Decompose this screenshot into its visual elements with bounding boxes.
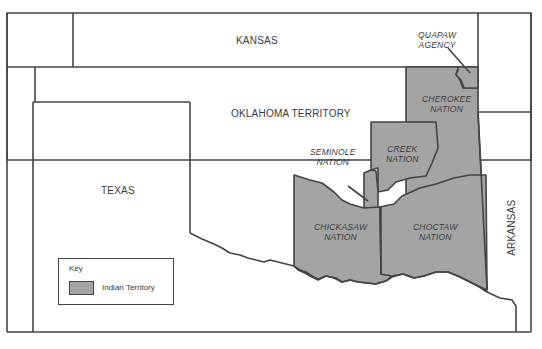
label-chickasaw-line2: NATION — [314, 233, 367, 243]
label-kansas: KANSAS — [236, 35, 278, 47]
legend-label-indian-territory: Indian Territory — [102, 283, 155, 292]
label-cherokee-nation: CHEROKEE NATION — [422, 95, 471, 115]
label-texas: TEXAS — [101, 185, 135, 197]
label-creek-line2: NATION — [386, 155, 419, 165]
label-seminole-line2: NATION — [310, 158, 356, 168]
seminole-nation-area — [364, 170, 378, 208]
label-oklahoma-territory: OKLAHOMA TERRITORY — [231, 108, 351, 120]
legend-title: Key — [69, 264, 83, 273]
label-arkansas: ARKANSAS — [506, 200, 518, 256]
label-choctaw-line2: NATION — [413, 233, 458, 243]
label-chickasaw-nation: CHICKASAW NATION — [314, 223, 367, 243]
label-cherokee-line2: NATION — [422, 105, 471, 115]
label-choctaw-nation: CHOCTAW NATION — [413, 223, 458, 243]
legend-swatch-indian-territory — [69, 281, 94, 295]
map-legend: Key Indian Territory — [58, 258, 174, 305]
label-quapaw-agency: QUAPAW AGENCY — [418, 31, 456, 51]
label-quapaw-line2: AGENCY — [418, 41, 456, 51]
label-seminole-nation: SEMINOLE NATION — [310, 148, 356, 168]
label-creek-nation: CREEK NATION — [386, 145, 419, 165]
